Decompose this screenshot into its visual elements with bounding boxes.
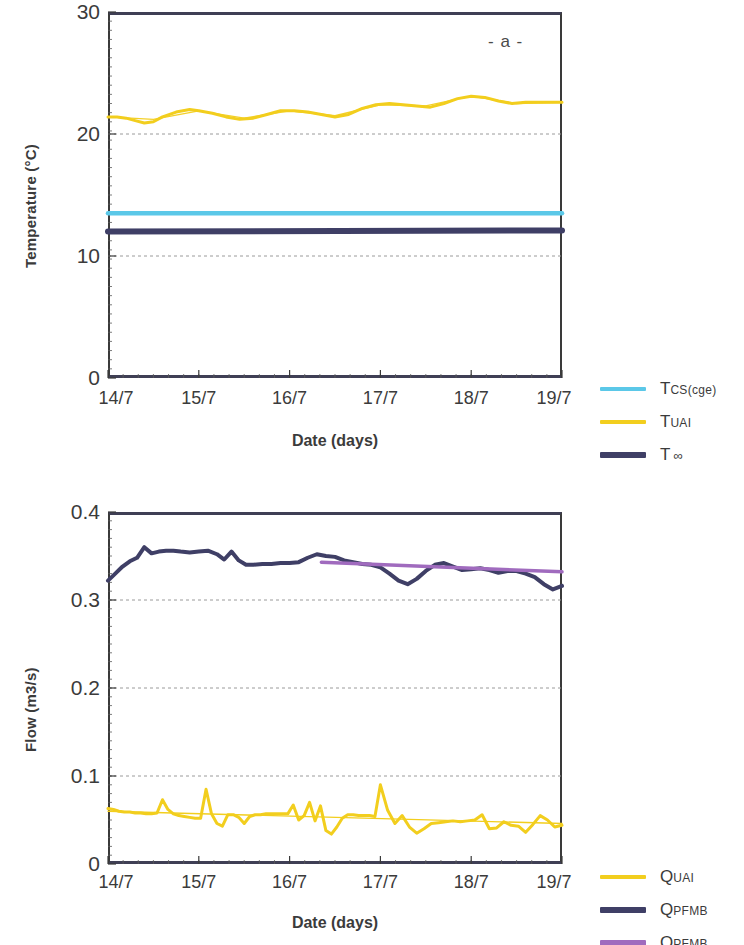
x-tick-label: 18/7 — [454, 388, 489, 409]
series-line — [108, 811, 562, 823]
x-tick-label: 19/7 — [536, 388, 571, 409]
legend-item-label: TUAI — [660, 413, 691, 430]
panel-b-x-axis-label: Date (days) — [108, 914, 562, 932]
legend-swatch-icon — [600, 875, 646, 879]
y-tick-label: 0.2 — [30, 677, 100, 698]
legend-item[interactable]: QPFMB — [600, 893, 708, 926]
legend-item[interactable]: QUAI — [600, 860, 708, 893]
legend-swatch-icon — [600, 940, 646, 945]
panel-a-x-axis-label: Date (days) — [108, 432, 562, 450]
legend-item[interactable]: TUAI — [600, 405, 717, 438]
panel-b-plot-area — [108, 512, 562, 864]
panel-a-legend: TCS(cge)TUAIT∞ — [600, 372, 717, 471]
x-tick-label: 16/7 — [272, 388, 307, 409]
y-tick-label: 0 — [30, 853, 100, 874]
panel-a-y-tick-labels: 0102030 — [28, 0, 100, 478]
x-tick-label: 17/7 — [363, 872, 398, 893]
x-tick-label: 17/7 — [363, 388, 398, 409]
y-tick-label: 0 — [30, 367, 100, 388]
panel-b-legend: QUAIQPFMBQPFMB — [600, 860, 708, 945]
x-tick-label: 15/7 — [181, 872, 216, 893]
x-tick-label: 14/7 — [98, 388, 133, 409]
legend-item[interactable]: QPFMB — [600, 926, 708, 945]
y-tick-label: 0.1 — [30, 765, 100, 786]
y-tick-label: 0.3 — [30, 589, 100, 610]
legend-item-label: QPFMB — [660, 934, 708, 945]
x-tick-label: 16/7 — [272, 872, 307, 893]
panel-a-plot-area — [108, 12, 562, 378]
panel-b-x-tick-labels: 14/715/716/717/718/719/7 — [108, 872, 562, 898]
y-tick-label: 30 — [30, 1, 100, 22]
x-tick-label: 15/7 — [181, 388, 216, 409]
x-tick-label: 14/7 — [98, 872, 133, 893]
legend-swatch-icon — [600, 420, 646, 424]
legend-swatch-icon — [600, 452, 646, 458]
legend-swatch-icon — [600, 907, 646, 913]
figure-container: Temperature (°C) 0102030 - a - 14/715/71… — [0, 0, 744, 945]
legend-swatch-icon — [600, 387, 646, 391]
panel-a-chart-svg — [108, 12, 562, 378]
legend-item-label: QPFMB — [660, 901, 708, 918]
y-tick-label: 20 — [30, 123, 100, 144]
x-tick-label: 19/7 — [536, 872, 571, 893]
legend-item-label: T∞ — [660, 446, 683, 463]
legend-item[interactable]: T∞ — [600, 438, 717, 471]
legend-item-label: QUAI — [660, 868, 694, 885]
y-tick-label: 0.4 — [30, 501, 100, 522]
series-line — [108, 785, 562, 834]
panel-a-tag: - a - — [488, 32, 523, 52]
series-line — [108, 96, 562, 119]
x-tick-label: 18/7 — [454, 872, 489, 893]
series-line — [108, 230, 562, 231]
panel-b-chart-svg — [108, 512, 562, 864]
y-tick-label: 10 — [30, 245, 100, 266]
legend-item[interactable]: TCS(cge) — [600, 372, 717, 405]
panel-b-y-tick-labels: 00.10.20.30.4 — [28, 490, 100, 945]
panel-a-x-tick-labels: 14/715/716/717/718/719/7 — [108, 388, 562, 414]
legend-item-label: TCS(cge) — [660, 380, 717, 397]
